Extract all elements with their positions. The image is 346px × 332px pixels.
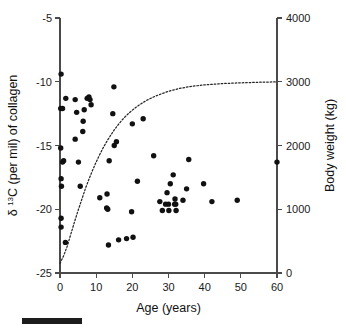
x-axis-tick-label: 0: [57, 281, 63, 293]
data-point: [63, 96, 68, 101]
data-point: [72, 136, 77, 141]
data-point: [88, 102, 93, 107]
data-point: [72, 97, 77, 102]
y-axis-right-tick-label: 0: [286, 267, 292, 279]
y-axis-left-tick-label: -15: [36, 140, 52, 152]
data-point: [58, 145, 63, 150]
data-point: [160, 208, 165, 213]
y-axis-right-title: Body weight (kg): [323, 99, 337, 192]
scatter-plot: -5-10-15-20-2501000200030004000010203040…: [0, 0, 346, 332]
data-point: [157, 199, 162, 204]
data-point: [130, 121, 135, 126]
data-point: [201, 181, 206, 186]
x-axis-tick-label: 40: [199, 281, 211, 293]
x-axis-tick-label: 10: [90, 281, 102, 293]
data-point: [173, 208, 178, 213]
y-axis-right-title-text: Body weight (kg): [323, 99, 337, 192]
scale-bar: [22, 318, 82, 324]
data-point: [58, 215, 63, 220]
data-point: [129, 209, 134, 214]
axis-labels-layer: -5-10-15-20-2501000200030004000010203040…: [6, 12, 338, 315]
data-point: [168, 181, 173, 186]
data-point: [105, 207, 110, 212]
data-point: [140, 116, 145, 121]
data-point: [124, 236, 129, 241]
data-point: [135, 179, 140, 184]
data-point: [82, 107, 87, 112]
delta-symbol: δ: [6, 206, 20, 216]
data-point: [104, 191, 109, 196]
y-axis-right-tick-label: 2000: [286, 140, 310, 152]
data-point: [97, 195, 102, 200]
data-point: [76, 159, 81, 164]
y-axis-left-tick-label: -5: [42, 12, 52, 24]
data-point: [61, 158, 66, 163]
growth-curve-layer: [60, 82, 277, 264]
data-point: [60, 106, 65, 111]
x-axis-tick-label: 50: [235, 281, 247, 293]
data-point: [80, 119, 85, 124]
data-point: [116, 237, 121, 242]
data-point: [209, 199, 214, 204]
data-point: [110, 111, 115, 116]
x-axis-tick-label: 20: [126, 281, 138, 293]
data-point: [184, 186, 189, 191]
y-axis-left-title-rest: C (per mil) of collagen: [6, 75, 20, 197]
data-point: [74, 110, 79, 115]
data-point: [87, 97, 92, 102]
data-point: [59, 184, 64, 189]
data-point: [180, 198, 185, 203]
data-point: [106, 242, 111, 247]
y-axis-right-tick-label: 4000: [286, 12, 310, 24]
data-point: [186, 157, 191, 162]
data-point: [274, 159, 279, 164]
data-point: [173, 201, 178, 206]
data-point: [63, 240, 68, 245]
data-point: [166, 208, 171, 213]
y-axis-left-tick-label: -20: [36, 203, 52, 215]
data-point: [80, 129, 85, 134]
data-point: [114, 139, 119, 144]
y-axis-left-title: δ 13C (per mil) of collagen: [6, 75, 21, 217]
data-point: [106, 158, 111, 163]
y-axis-right-tick-label: 1000: [286, 203, 310, 215]
data-point: [130, 235, 135, 240]
figure-container: -5-10-15-20-2501000200030004000010203040…: [0, 0, 346, 332]
y-axis-right-tick-label: 3000: [286, 76, 310, 88]
data-points-layer: [58, 71, 280, 247]
data-point: [58, 71, 63, 76]
x-axis-title: Age (years): [136, 301, 201, 315]
x-axis-tick-label: 30: [162, 281, 174, 293]
y-axis-left-tick-label: -10: [36, 76, 52, 88]
data-point: [235, 198, 240, 203]
data-point: [171, 172, 176, 177]
y-axis-left-title-text: δ 13C (per mil) of collagen: [6, 75, 21, 217]
data-point: [166, 201, 171, 206]
data-point: [111, 84, 116, 89]
data-point: [172, 196, 177, 201]
data-point: [164, 190, 169, 195]
y-axis-left-tick-label: -25: [36, 267, 52, 279]
data-point: [58, 224, 63, 229]
data-point: [151, 153, 156, 158]
data-point: [78, 184, 83, 189]
data-point: [58, 176, 63, 181]
axes-layer: [55, 18, 282, 278]
x-axis-tick-label: 60: [271, 281, 283, 293]
body-weight-growth-curve: [60, 82, 277, 264]
